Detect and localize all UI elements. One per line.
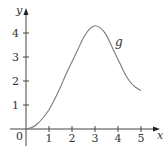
origin-label: 0 <box>16 130 23 143</box>
y-tick-label: 2 <box>12 75 19 88</box>
x-tick-label: 2 <box>69 132 76 145</box>
axes <box>10 8 160 146</box>
x-tick-label: 3 <box>92 132 99 145</box>
curve-g <box>26 26 141 129</box>
y-tick-label: 1 <box>12 99 19 112</box>
y-axis-arrow-icon <box>24 8 29 15</box>
y-tick-label: 4 <box>12 27 19 40</box>
y-tick-label: 3 <box>12 51 19 64</box>
x-tick-label: 4 <box>115 132 122 145</box>
x-tick-label: 1 <box>46 132 53 145</box>
x-axis-label: x <box>157 129 164 142</box>
y-axis-label: y <box>15 4 23 17</box>
curve-label-g: g <box>115 35 123 49</box>
chart: 123451234 y x 0 g <box>0 0 166 154</box>
x-tick-label: 5 <box>138 132 145 145</box>
